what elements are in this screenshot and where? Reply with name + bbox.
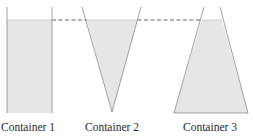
container-1-label: Container 1 xyxy=(1,121,55,133)
container-1-liquid xyxy=(7,20,52,113)
container-2-label: Container 2 xyxy=(85,121,139,133)
container-2-liquid xyxy=(87,20,138,112)
container-3 xyxy=(174,7,248,113)
container-3-label: Container 3 xyxy=(183,121,237,133)
container-3-liquid xyxy=(174,20,248,113)
containers-diagram xyxy=(0,0,253,137)
container-1 xyxy=(7,7,52,113)
container-2 xyxy=(82,7,141,112)
